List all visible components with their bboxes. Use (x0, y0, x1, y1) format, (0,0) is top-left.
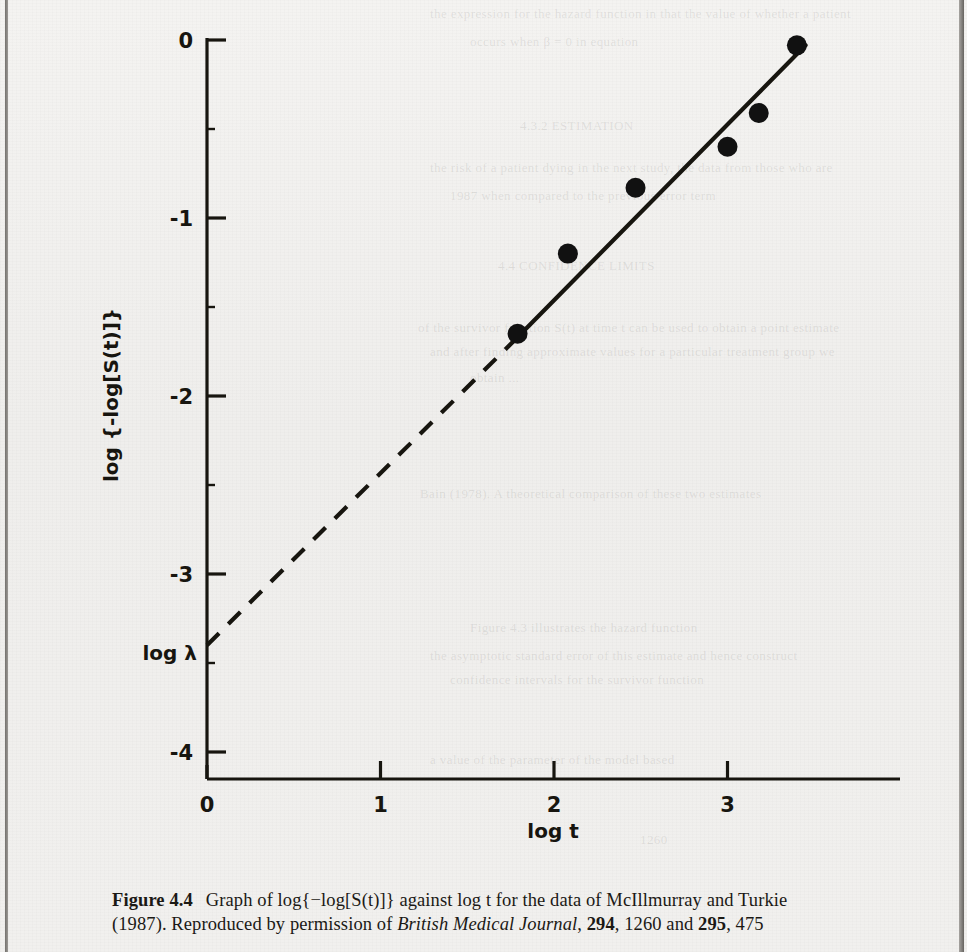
log-lambda-annotation: log λ (142, 641, 197, 665)
survival-loglog-plot: 0-1-2-3-4 0123 log t log {-log[S(t)]} lo… (0, 0, 967, 870)
x-tick-label: 2 (547, 793, 562, 817)
figure-number: Figure 4.4 (112, 890, 193, 910)
data-point (787, 35, 807, 55)
data-point (626, 178, 646, 198)
fitted-regression-line (518, 45, 806, 337)
caption-volume-2: 295 (698, 914, 726, 934)
x-axis-ticks (207, 761, 728, 779)
y-axis-title: log {-log[S(t)]} (99, 308, 123, 482)
x-axis-title: log t (527, 819, 579, 843)
data-point-markers (508, 35, 807, 343)
data-point (718, 137, 738, 157)
y-tick-label: -3 (170, 563, 193, 587)
x-axis-tick-labels: 0123 (200, 793, 735, 817)
y-tick-label: -2 (170, 385, 193, 409)
x-tick-label: 0 (200, 793, 215, 817)
scanned-page: the expression for the hazard function i… (0, 0, 967, 952)
figure-caption: Figure 4.4Graph of log{−log[S(t)]} again… (112, 888, 902, 936)
x-tick-label: 1 (373, 793, 388, 817)
caption-volume-1: 294 (587, 914, 615, 934)
y-tick-label: -4 (170, 741, 193, 765)
caption-page-1: , 1260 and (615, 914, 698, 934)
figure-plot-area: 0-1-2-3-4 0123 log t log {-log[S(t)]} lo… (0, 0, 967, 870)
caption-line-1: Graph of log{−log[S(t)]} against log t f… (206, 890, 788, 910)
x-axis: 0123 (200, 761, 900, 817)
extrapolation-dashed-line (207, 337, 518, 645)
y-tick-label: 0 (178, 29, 193, 53)
caption-year: (1987). Reproduced by permission of (112, 914, 397, 934)
caption-page-2: , 475 (726, 914, 764, 934)
data-point (749, 103, 769, 123)
y-tick-label: -1 (170, 207, 193, 231)
x-tick-label: 3 (720, 793, 735, 817)
data-point (508, 324, 528, 344)
data-point (558, 244, 578, 264)
y-axis: 0-1-2-3-4 (170, 29, 226, 779)
caption-journal: British Medical Journal (397, 914, 577, 934)
